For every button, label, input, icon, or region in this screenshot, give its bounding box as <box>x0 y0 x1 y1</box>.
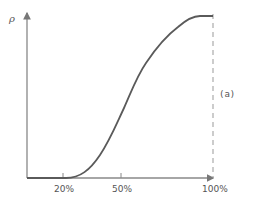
panel-label: (a) <box>219 89 235 99</box>
rho-curve <box>27 16 213 178</box>
x-tick-label-20: 20% <box>54 184 74 194</box>
x-tick-label-100: 100% <box>202 184 228 194</box>
chart-canvas <box>0 0 254 211</box>
x-tick-label-50: 50% <box>112 184 132 194</box>
y-axis-label: ρ <box>9 13 15 24</box>
